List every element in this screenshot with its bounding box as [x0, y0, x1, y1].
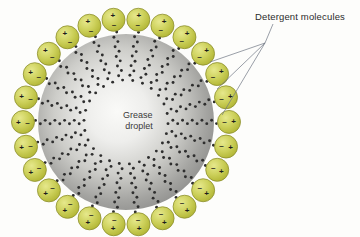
head-positive-sign: + — [16, 118, 21, 127]
detergent-head: +– — [151, 207, 174, 230]
detergent-head: +– — [15, 135, 38, 158]
detergent-head: +– — [56, 26, 79, 49]
head-positive-sign: + — [43, 189, 48, 198]
head-positive-sign: + — [219, 167, 224, 176]
head-positive-sign: + — [228, 143, 233, 152]
detergent-head: +– — [192, 179, 215, 202]
head-negative-sign: – — [211, 72, 216, 81]
leader-line — [222, 43, 265, 115]
micelle-diagram: +–+–+–+–+–+–+–+–+–+–+–+–+–+–+–+–+–+–+–+–… — [0, 0, 360, 237]
head-positive-sign: + — [204, 189, 209, 198]
head-positive-sign: + — [111, 224, 116, 233]
grease-droplet-label-line1: Grease droplet — [123, 110, 155, 131]
head-positive-sign: + — [63, 206, 68, 215]
head-negative-sign: – — [37, 72, 42, 81]
head-negative-sign: – — [159, 209, 164, 218]
detergent-head: +– — [127, 213, 150, 236]
detergent-head: +– — [206, 63, 229, 86]
detergent-head: +– — [151, 14, 174, 37]
head-positive-sign: + — [137, 224, 142, 233]
head-positive-sign: + — [219, 67, 224, 76]
detergent-head: +– — [23, 63, 46, 86]
head-positive-sign: + — [62, 29, 67, 38]
head-negative-sign: – — [50, 183, 55, 192]
head-negative-sign: – — [28, 141, 33, 150]
head-negative-sign: – — [197, 52, 202, 61]
detergent-head: +– — [218, 110, 241, 133]
head-positive-sign: + — [204, 46, 209, 55]
detergent-head: +– — [14, 86, 37, 109]
head-negative-sign: – — [219, 141, 224, 150]
head-positive-sign: + — [231, 117, 236, 126]
head-positive-sign: + — [19, 143, 24, 152]
detergent-head: +– — [173, 195, 196, 218]
head-negative-sign: – — [89, 26, 94, 35]
detergent-head: +– — [127, 8, 150, 31]
diagram-canvas: +–+–+–+–+–+–+–+–+–+–+–+–+–+–+–+–+–+–+–+–… — [0, 0, 360, 237]
head-negative-sign: – — [180, 198, 185, 207]
head-negative-sign: – — [219, 94, 224, 103]
head-negative-sign: – — [222, 117, 227, 126]
detergent-head: +– — [102, 8, 125, 31]
head-negative-sign: – — [25, 118, 30, 127]
head-positive-sign: + — [162, 218, 167, 227]
head-positive-sign: + — [43, 46, 48, 55]
head-positive-sign: + — [228, 92, 233, 101]
detergent-head: +– — [78, 207, 101, 230]
head-negative-sign: – — [37, 163, 42, 172]
detergent-head: +– — [37, 42, 60, 65]
head-negative-sign: – — [197, 183, 202, 192]
head-positive-sign: + — [185, 206, 190, 215]
detergent-head: +– — [78, 14, 101, 37]
head-negative-sign: – — [68, 199, 73, 208]
head-negative-sign: – — [136, 215, 141, 224]
head-negative-sign: – — [159, 25, 164, 34]
detergent-head: +– — [23, 158, 46, 181]
detergent-head: +– — [12, 111, 35, 134]
head-negative-sign: – — [89, 210, 94, 219]
head-negative-sign: – — [136, 20, 141, 29]
detergent-head: +– — [56, 195, 79, 218]
head-negative-sign: – — [68, 37, 73, 46]
head-negative-sign: – — [112, 20, 117, 29]
head-negative-sign: – — [112, 215, 117, 224]
head-positive-sign: + — [86, 218, 91, 227]
head-negative-sign: – — [50, 52, 55, 61]
detergent-molecules-label: Detergent molecules — [255, 11, 345, 22]
detergent-head: +– — [102, 213, 125, 236]
head-positive-sign: + — [19, 92, 24, 101]
leader-stem — [265, 24, 273, 43]
head-negative-sign: – — [28, 94, 33, 103]
detergent-head: +– — [173, 26, 196, 49]
head-positive-sign: + — [137, 11, 142, 20]
head-positive-sign: + — [185, 29, 190, 38]
detergent-head: +– — [37, 179, 60, 202]
head-negative-sign: – — [180, 36, 185, 45]
leader-line — [210, 43, 265, 62]
detergent-head: +– — [214, 86, 237, 109]
head-positive-sign: + — [28, 168, 33, 177]
detergent-head: +– — [206, 158, 229, 181]
detergent-head: +– — [215, 135, 238, 158]
head-positive-sign: + — [28, 68, 33, 77]
head-positive-sign: + — [111, 11, 116, 20]
head-negative-sign: – — [211, 163, 216, 172]
